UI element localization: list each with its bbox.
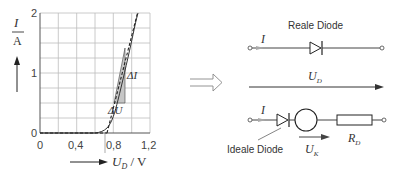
current-arrow-bottom-icon — [258, 118, 266, 122]
y-tick-2: 2 — [31, 7, 37, 19]
uk-arrow-head-icon — [321, 134, 330, 140]
delta-i-label: ΔI — [126, 69, 138, 81]
voltage-source-icon — [295, 109, 317, 131]
ideal-diode-leader — [258, 128, 281, 140]
y-arrow-head-icon — [14, 56, 20, 65]
x-tick-0: 0 — [37, 139, 43, 151]
x-label: UD / V — [112, 154, 147, 171]
delta-u-label: ΔU — [107, 104, 123, 116]
terminal-left-bottom — [248, 118, 252, 122]
current-arrow-top-icon — [256, 46, 264, 50]
x-tick-12: 1,2 — [141, 139, 156, 151]
x-arrow-head-icon — [99, 159, 108, 165]
terminal-right-top — [380, 46, 384, 50]
ideal-diode-label: Ideale Diode — [227, 144, 284, 155]
y-tick-0: 0 — [31, 127, 37, 139]
terminal-left-top — [248, 46, 252, 50]
ud-arrow-head-icon — [375, 84, 384, 90]
ud-label: UD — [308, 69, 322, 85]
terminal-right-bottom — [382, 118, 386, 122]
rd-label: RD — [347, 131, 360, 147]
uk-label: UK — [305, 142, 319, 158]
diode-diagram: ΔI ΔU 2 1 0 0 0,4 0,8 1,2 I A UD / V Rea… — [0, 0, 395, 173]
real-diode-symbol-icon — [310, 41, 322, 55]
x-tick-04: 0,4 — [68, 139, 83, 151]
x-tick-08: 0,8 — [106, 139, 121, 151]
implies-arrow-icon — [190, 74, 222, 91]
current-label-bottom: I — [260, 103, 266, 117]
current-label-top: I — [260, 32, 266, 46]
ideal-diode-symbol-icon — [277, 113, 289, 127]
y-label-unit: A — [13, 34, 22, 48]
resistor-icon — [337, 115, 372, 125]
y-label-quantity: I — [13, 15, 19, 30]
y-tick-1: 1 — [31, 67, 37, 79]
real-diode-title: Reale Diode — [288, 20, 343, 31]
